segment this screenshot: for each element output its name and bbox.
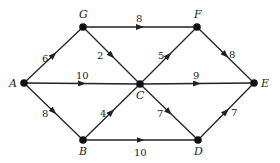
node-F xyxy=(193,23,201,31)
weight-G-F: 8 xyxy=(136,13,142,24)
weight-C-E: 9 xyxy=(193,70,199,81)
node-D xyxy=(194,136,202,144)
edge-A-B xyxy=(24,83,83,140)
node-label-A: A xyxy=(8,77,17,90)
edge-A-C xyxy=(24,83,140,84)
weight-B-D: 10 xyxy=(134,147,147,158)
edge-G-C xyxy=(83,27,140,84)
node-label-E: E xyxy=(260,77,269,90)
edge-C-E xyxy=(140,83,254,84)
weight-F-E: 8 xyxy=(229,49,235,60)
node-label-D: D xyxy=(193,145,203,158)
weight-G-C: 2 xyxy=(97,50,103,61)
edge-C-D xyxy=(140,84,198,140)
node-label-B: B xyxy=(78,145,87,158)
weight-C-F: 5 xyxy=(158,50,164,61)
node-G xyxy=(79,23,87,31)
weight-D-E: 7 xyxy=(231,107,237,118)
weight-A-C: 10 xyxy=(76,70,89,81)
weight-C-D: 7 xyxy=(157,108,163,119)
edge-A-G xyxy=(24,27,83,83)
weight-A-B: 8 xyxy=(42,108,48,119)
edge-C-F xyxy=(140,27,197,84)
node-E xyxy=(250,79,258,87)
edge-B-C xyxy=(83,84,140,140)
weight-B-C: 4 xyxy=(100,108,106,119)
edge-F-E xyxy=(197,27,254,83)
node-C xyxy=(136,80,144,88)
edge-D-E xyxy=(198,83,254,140)
node-B xyxy=(79,136,87,144)
graph-diagram: 6 10 8 8 2 4 10 5 9 7 8 7 A G F E C B D xyxy=(0,0,280,163)
node-label-G: G xyxy=(79,8,88,21)
node-A xyxy=(20,79,28,87)
node-label-F: F xyxy=(193,8,202,21)
node-label-C: C xyxy=(136,89,145,102)
weight-A-G: 6 xyxy=(42,53,48,64)
